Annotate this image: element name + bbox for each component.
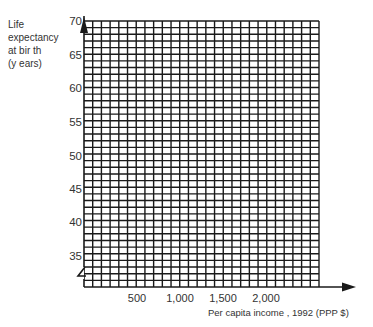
x-tick-label: 1,500 [209,292,237,304]
x-axis-title: Per capita income , 1992 (PPP $) [208,307,349,318]
x-tick-label: 2,000 [252,292,280,304]
y-axis-arrow-icon [80,17,88,33]
plot-area [0,0,373,327]
x-tick-label: 500 [128,292,146,304]
x-axis-arrow-icon [342,283,356,292]
x-tick-label: 1,000 [166,292,194,304]
